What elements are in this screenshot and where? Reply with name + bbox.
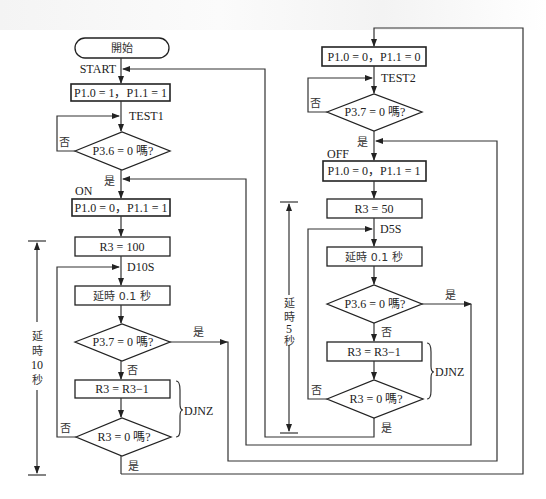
yes-label: 是 bbox=[104, 175, 115, 188]
djnz-brace-right bbox=[427, 343, 434, 399]
djnz-label-right: DJNZ bbox=[435, 365, 464, 379]
test2-label: TEST2 bbox=[381, 71, 416, 85]
no-label: 否 bbox=[311, 384, 322, 397]
off-box-text: P1.0 = 0，P1.1 = 1 bbox=[328, 164, 421, 178]
decision-r3-zero-right-text: R3 = 0 嗎? bbox=[349, 392, 402, 406]
no-label: 否 bbox=[59, 136, 70, 149]
dim-char: 延 bbox=[32, 330, 43, 343]
no-label: 否 bbox=[310, 97, 321, 110]
decision-p36-text: P3.6 = 0 嗎? bbox=[93, 144, 154, 158]
dim-char: 10 bbox=[31, 358, 43, 372]
yes-label: 是 bbox=[357, 136, 368, 149]
delay-box-right-text: 延時 0.1 秒 bbox=[345, 250, 403, 264]
dim-char: 秒 bbox=[32, 373, 43, 387]
no-label: 否 bbox=[127, 364, 138, 377]
decision-r3-zero-text: R3 = 0 嗎? bbox=[97, 430, 150, 444]
r3-decrement-right-text: R3 = R3−1 bbox=[347, 345, 401, 359]
flowchart: 開始 START P1.0 = 1，P1.1 = 1 TEST1 P3.6 = … bbox=[0, 0, 546, 499]
decision-p37-text: P3.7 = 0 嗎? bbox=[93, 335, 154, 349]
r3-decrement-text: R3 = R3−1 bbox=[95, 382, 149, 396]
dim-char: 5 bbox=[286, 322, 292, 336]
no-label: 否 bbox=[60, 422, 71, 435]
off0-box-text: P1.0 = 0，P1.1 = 0 bbox=[328, 50, 421, 64]
yes-label: 是 bbox=[128, 460, 139, 473]
d10s-label: D10S bbox=[127, 260, 154, 274]
yes-label: 是 bbox=[381, 422, 392, 435]
r3-100-text: R3 = 100 bbox=[100, 240, 145, 254]
d5s-label: D5S bbox=[380, 222, 401, 236]
yes-label: 是 bbox=[445, 289, 456, 302]
yes-label: 是 bbox=[193, 326, 204, 339]
on-box-text: P1.0 = 0，P1.1 = 1 bbox=[75, 201, 168, 215]
on-label: ON bbox=[75, 184, 93, 198]
start-terminal-text: 開始 bbox=[111, 41, 133, 55]
decision-p37-right-text: P3.7 = 0 嗎? bbox=[345, 105, 406, 119]
dim-char: 秒 bbox=[284, 334, 295, 348]
no-label: 否 bbox=[381, 326, 392, 339]
init-box-text: P1.0 = 1，P1.1 = 1 bbox=[74, 86, 167, 100]
djnz-label: DJNZ bbox=[184, 404, 213, 418]
decision-p36-right-text: P3.6 = 0 嗎? bbox=[345, 297, 406, 311]
delay-box-text: 延時 0.1 秒 bbox=[93, 289, 151, 303]
dim-char: 時 bbox=[32, 345, 43, 358]
dim-char: 延 bbox=[284, 297, 295, 310]
off-label: OFF bbox=[327, 147, 349, 161]
test1-label: TEST1 bbox=[129, 109, 164, 123]
start-label: START bbox=[80, 62, 117, 76]
r3-50-text: R3 = 50 bbox=[355, 202, 394, 216]
djnz-brace bbox=[176, 381, 183, 437]
